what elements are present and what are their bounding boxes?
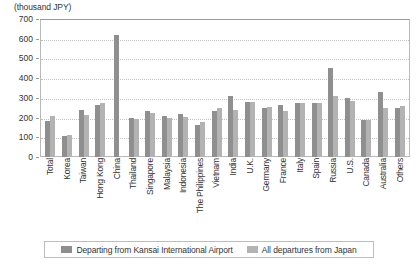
x-axis-tick: Singapore: [142, 158, 159, 224]
x-axis-tick-label: India: [229, 158, 238, 177]
x-axis-tick: U.S.: [342, 158, 359, 224]
y-axis-unit-caption: (thousand JPY): [14, 2, 71, 12]
y-axis-tick-mark: [36, 137, 39, 138]
x-axis-tick: Spain: [308, 158, 325, 224]
y-axis-tick-mark: [36, 78, 39, 79]
x-axis-tick: Thailand: [125, 158, 142, 224]
legend-item[interactable]: Departing from Kansai International Airp…: [61, 245, 232, 255]
x-axis-tick-label: Malaysia: [163, 158, 172, 192]
y-axis-tick-mark: [36, 118, 39, 119]
legend-color-swatch: [247, 246, 258, 253]
x-axis-tick: Korea: [59, 158, 76, 224]
x-axis-tick-label: The Philippines: [196, 158, 205, 215]
x-axis-tick: The Philippines: [192, 158, 209, 224]
x-axis-tick-label: Germany: [262, 158, 271, 194]
gridline: [41, 40, 409, 41]
y-axis-tick-label: 300: [19, 93, 33, 103]
y-axis-tick-mark: [36, 58, 39, 59]
y-axis: 0100200300400500600700: [0, 19, 36, 157]
chart-legend: Departing from Kansai International Airp…: [44, 241, 374, 258]
x-axis-tick: Indonesia: [175, 158, 192, 224]
x-axis-tick: Canada: [358, 158, 375, 224]
x-axis-tick-label: U.S.: [346, 158, 355, 176]
x-axis-tick-label: Taiwan: [79, 158, 88, 185]
plot-area: [40, 19, 410, 157]
y-axis-tick-label: 400: [19, 73, 33, 83]
x-axis-tick: Germany: [258, 158, 275, 224]
x-axis-tick: China: [109, 158, 126, 224]
x-axis-tick-label: Korea: [63, 158, 72, 182]
x-axis-tick-label: Thailand: [129, 158, 138, 191]
x-axis-tick: Total: [42, 158, 59, 224]
y-axis-tick-label: 0: [28, 152, 33, 162]
y-axis-tick-label: 600: [19, 34, 33, 44]
gridline: [41, 79, 409, 80]
x-axis-tick-label: Australia: [379, 158, 388, 191]
gridline: [41, 119, 409, 120]
chart-container: (thousand JPY) 0100200300400500600700 To…: [0, 0, 419, 265]
legend-item[interactable]: All departures from Japan: [247, 245, 357, 255]
x-axis-tick-label: Vietnam: [212, 158, 221, 190]
gridline: [41, 99, 409, 100]
x-axis-tick-label: Hong Kong: [96, 158, 105, 201]
x-axis-tick: Malaysia: [158, 158, 175, 224]
legend-color-swatch: [61, 246, 72, 253]
legend-label: Departing from Kansai International Airp…: [76, 245, 232, 255]
x-axis-tick-label: China: [113, 158, 122, 181]
y-axis-tick-mark: [36, 39, 39, 40]
x-axis-tick: Australia: [375, 158, 392, 224]
y-axis-tick-label: 700: [19, 14, 33, 24]
x-axis-tick: Taiwan: [75, 158, 92, 224]
x-axis-tick-label: Spain: [312, 158, 321, 181]
x-axis-tick-label: U.K.: [246, 158, 255, 176]
x-axis-tick-label: Russia: [329, 158, 338, 185]
gridline: [41, 138, 409, 139]
x-axis-tick: Others: [391, 158, 408, 224]
x-axis-tick: Italy: [292, 158, 309, 224]
x-axis-tick-label: Singapore: [146, 158, 155, 197]
y-axis-tick-label: 500: [19, 53, 33, 63]
x-axis: TotalKoreaTaiwanHong KongChinaThailandSi…: [40, 158, 410, 224]
x-axis-tick: India: [225, 158, 242, 224]
x-axis-tick-label: Italy: [296, 158, 305, 175]
legend-label: All departures from Japan: [262, 245, 357, 255]
x-axis-tick-label: Canada: [362, 158, 371, 189]
x-axis-tick-label: Total: [46, 158, 55, 177]
y-axis-tick-mark: [36, 157, 39, 158]
x-axis-tick: Vietnam: [208, 158, 225, 224]
y-axis-tick-label: 200: [19, 113, 33, 123]
y-axis-tick-label: 100: [19, 132, 33, 142]
x-axis-tick-label: France: [279, 158, 288, 185]
y-axis-tick-mark: [36, 98, 39, 99]
x-axis-tick: Hong Kong: [92, 158, 109, 224]
x-axis-tick-label: Indonesia: [179, 158, 188, 195]
y-axis-tick-mark: [36, 19, 39, 20]
x-axis-tick: France: [275, 158, 292, 224]
x-axis-tick: U.K.: [242, 158, 259, 224]
x-axis-tick: Russia: [325, 158, 342, 224]
x-axis-tick-label: Others: [396, 158, 405, 184]
gridline: [41, 59, 409, 60]
